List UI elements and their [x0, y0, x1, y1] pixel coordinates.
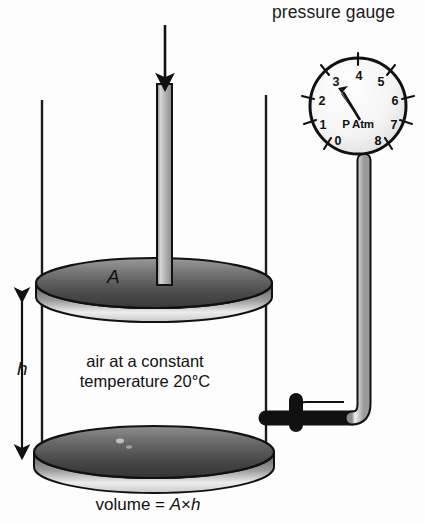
- gauge-number-4: 4: [356, 69, 363, 83]
- piston-disk: [36, 258, 272, 322]
- gauge-number-8: 8: [375, 134, 382, 148]
- volume-caption-prefix: volume =: [96, 495, 170, 514]
- cylinder-base-disk: [34, 426, 274, 493]
- gas-description-line-1: air at a constant: [0, 352, 290, 371]
- gauge-number-6: 6: [392, 94, 399, 108]
- gauge-number-1: 1: [320, 118, 327, 132]
- volume-caption-times: ×: [181, 495, 191, 514]
- gauge-number-7: 7: [391, 118, 398, 132]
- gauge-number-5: 5: [378, 75, 385, 89]
- gauge-center-label: P Atm: [342, 118, 374, 130]
- gauge-number-3: 3: [333, 75, 340, 89]
- volume-caption: volume = A×h: [0, 495, 296, 515]
- diagram-canvas: pressure gauge A h air at a constant tem…: [0, 0, 425, 524]
- gas-description-line-2: temperature 20°C: [0, 372, 290, 391]
- area-label: A: [107, 266, 120, 288]
- pressure-gauge-title: pressure gauge: [272, 2, 395, 23]
- volume-caption-area-symbol: A: [170, 495, 181, 514]
- piston-rod: [157, 84, 172, 285]
- gauge-number-0: 0: [335, 134, 342, 148]
- volume-caption-height-symbol: h: [191, 495, 200, 514]
- gauge-number-2: 2: [319, 94, 326, 108]
